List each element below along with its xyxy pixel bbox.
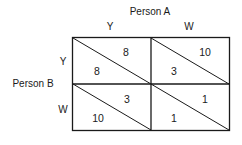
cell-yy-lower-left: 8 <box>94 65 100 77</box>
cell-yw-lower-left: 3 <box>171 65 177 77</box>
payoff-matrix-grid <box>0 0 242 145</box>
cell-ww-upper-right: 1 <box>202 93 208 105</box>
cell-yw-upper-right: 10 <box>199 46 211 58</box>
cell-wy-upper-right: 3 <box>124 93 130 105</box>
cell-yy-upper-right: 8 <box>123 46 129 58</box>
cell-wy-lower-left: 10 <box>92 112 104 124</box>
cell-ww-lower-left: 1 <box>171 112 177 124</box>
